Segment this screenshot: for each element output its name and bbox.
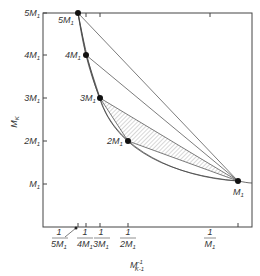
svg-text:1: 1 [82, 227, 87, 237]
svg-text:M1: M1 [205, 239, 216, 250]
point-label-3m1: 3M1 [80, 93, 96, 104]
curve-inner [78, 13, 100, 98]
y-tick-label: 4M1 [24, 50, 40, 61]
svg-text:1: 1 [98, 227, 103, 237]
point-label-m1: M1 [233, 187, 244, 198]
x-tick-label-5m1: 1 5M1 [51, 227, 68, 250]
y-ticks [43, 13, 47, 184]
point-3m1 [97, 95, 103, 101]
svg-text:5M1: 5M1 [51, 239, 67, 250]
pointer-arrow-head [75, 227, 78, 230]
diagram: 5M1 4M1 3M1 2M1 M1 MK 5M1 4M1 3M1 2M1 M1… [0, 0, 260, 276]
point-m1 [235, 178, 241, 184]
svg-text:1: 1 [207, 227, 212, 237]
point-label-5m1: 5M1 [58, 15, 74, 26]
x-tick-label-3m1: 1 3M1 [93, 227, 110, 250]
svg-text:4M1: 4M1 [77, 239, 93, 250]
x-tick-label-4m1: 1 4M1 [77, 227, 93, 250]
point-label-4m1: 4M1 [65, 50, 81, 61]
point-4m1 [83, 52, 89, 58]
point-2m1 [125, 138, 131, 144]
y-tick-label: 2M1 [23, 136, 40, 147]
plot-frame [43, 13, 252, 227]
chord-3m-m1 [100, 98, 238, 181]
svg-text:2M1: 2M1 [119, 239, 136, 250]
svg-text:1: 1 [125, 227, 130, 237]
curve-piecewise [78, 13, 100, 98]
top-ticks [86, 13, 210, 17]
curve-outer [78, 13, 252, 183]
svg-text:1: 1 [56, 227, 61, 237]
pointer-arrow [65, 228, 76, 237]
chord-2m-m1 [128, 141, 238, 181]
point-5m1 [75, 10, 81, 16]
svg-text:3M1: 3M1 [93, 239, 109, 250]
x-axis-label: M-1K-1 [130, 259, 144, 272]
y-tick-label: 5M1 [24, 8, 40, 19]
point-label-2m1: 2M1 [106, 136, 123, 147]
y-tick-label: 3M1 [24, 93, 40, 104]
y-tick-label: M1 [29, 179, 40, 190]
x-tick-label-m1: 1 M1 [204, 227, 216, 250]
x-tick-label-2m1: 1 2M1 [119, 227, 136, 250]
y-axis-label: MK [9, 115, 20, 128]
